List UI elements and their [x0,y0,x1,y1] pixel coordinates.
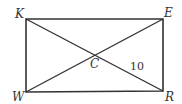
vertex-label-k: K [14,7,25,21]
vertex-label-w: W [12,90,26,104]
vertex-label-r: R [164,90,174,104]
center-label-c: C [90,57,99,71]
segment-length-label: 10 [130,60,144,73]
vertex-label-e: E [163,6,173,20]
rectangle-diagram: K E R W C 10 [0,0,182,104]
